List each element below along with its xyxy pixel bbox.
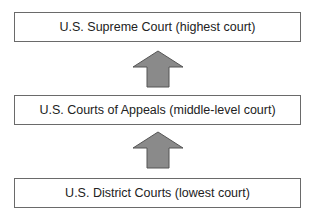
courts-of-appeals-label: U.S. Courts of Appeals (middle-level cou…	[39, 103, 275, 117]
up-arrow-icon	[131, 50, 185, 88]
up-arrow-icon	[131, 131, 185, 169]
courts-of-appeals-box: U.S. Courts of Appeals (middle-level cou…	[14, 95, 301, 125]
district-courts-label: U.S. District Courts (lowest court)	[65, 186, 250, 200]
supreme-court-box: U.S. Supreme Court (highest court)	[14, 12, 301, 42]
supreme-court-label: U.S. Supreme Court (highest court)	[60, 20, 256, 34]
district-courts-box: U.S. District Courts (lowest court)	[14, 178, 301, 208]
